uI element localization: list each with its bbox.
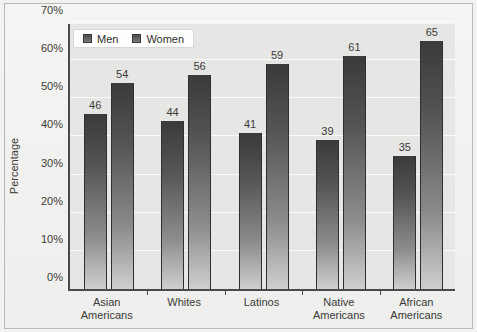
x-axis-label-line: Americans xyxy=(68,309,145,322)
bar-value-label: 41 xyxy=(244,118,256,130)
y-axis-tick-label: 50% xyxy=(41,80,63,92)
bar-men: 46 xyxy=(84,114,107,289)
legend-item-men: Men xyxy=(83,33,118,45)
bar-group: 3565 xyxy=(393,24,443,289)
chart-legend: MenWomen xyxy=(73,29,194,48)
legend-item-women: Women xyxy=(132,33,184,45)
bar-value-label: 54 xyxy=(116,68,128,80)
bar-women: 59 xyxy=(266,64,289,289)
legend-label: Men xyxy=(97,33,118,45)
bar-group: 4159 xyxy=(239,24,289,289)
bar-value-label: 35 xyxy=(399,141,411,153)
y-axis-tick-label: 10% xyxy=(41,233,63,245)
y-axis-tick-label: 0% xyxy=(47,271,63,283)
bar-group: 4456 xyxy=(161,24,211,289)
bar-men: 41 xyxy=(239,133,262,289)
bar-value-label: 44 xyxy=(166,106,178,118)
x-axis-category-label: Latinos xyxy=(223,296,300,309)
bar-value-label: 61 xyxy=(348,41,360,53)
x-axis-category-label: Whites xyxy=(145,296,222,309)
x-axis-tick-mark xyxy=(380,289,381,295)
x-axis-category-label: AfricanAmericans xyxy=(378,296,455,322)
x-axis-label-line: Native xyxy=(300,296,377,309)
bar-men: 39 xyxy=(316,140,339,289)
bar-men: 44 xyxy=(161,121,184,289)
bar-women: 61 xyxy=(343,56,366,289)
x-axis-label-line: Whites xyxy=(145,296,222,309)
legend-swatch-icon xyxy=(132,34,141,43)
legend-swatch-icon xyxy=(83,34,92,43)
y-axis-title: Percentage xyxy=(8,138,20,194)
x-axis-tick-mark xyxy=(147,289,148,295)
bar-value-label: 65 xyxy=(426,26,438,38)
x-axis-label-line: Americans xyxy=(300,309,377,322)
bar-women: 56 xyxy=(188,75,211,289)
x-axis-label-line: Americans xyxy=(378,309,455,322)
x-axis-label-line: African xyxy=(378,296,455,309)
bar-value-label: 59 xyxy=(271,49,283,61)
x-axis-category-label: AsianAmericans xyxy=(68,296,145,322)
y-axis-tick-label: 40% xyxy=(41,118,63,130)
bar-women: 65 xyxy=(420,41,443,289)
bar-value-label: 56 xyxy=(193,60,205,72)
y-axis-tick-label: 70% xyxy=(41,4,63,16)
bar-chart-figure: Percentage 0%10%20%30%40%50%60%70% 46544… xyxy=(0,0,477,332)
bar-group: 4654 xyxy=(84,24,134,289)
x-axis-tick-mark xyxy=(225,289,226,295)
x-axis-category-label: NativeAmericans xyxy=(300,296,377,322)
bar-group: 3961 xyxy=(316,24,366,289)
plot-area: 0%10%20%30%40%50%60%70% 4654445641593961… xyxy=(68,24,455,291)
x-axis-tick-mark xyxy=(302,289,303,295)
y-axis-tick-label: 30% xyxy=(41,157,63,169)
y-axis-tick-label: 20% xyxy=(41,195,63,207)
bar-value-label: 46 xyxy=(89,99,101,111)
x-axis-label-line: Latinos xyxy=(223,296,300,309)
y-axis-tick-label: 60% xyxy=(41,42,63,54)
bar-value-label: 39 xyxy=(321,125,333,137)
bar-men: 35 xyxy=(393,156,416,290)
bar-women: 54 xyxy=(111,83,134,289)
legend-label: Women xyxy=(146,33,184,45)
x-axis-label-line: Asian xyxy=(68,296,145,309)
